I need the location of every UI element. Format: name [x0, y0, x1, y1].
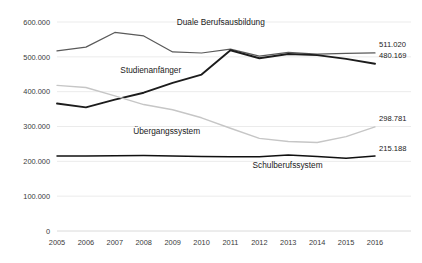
y-axis-tick-label: 300.000 — [23, 122, 50, 131]
y-axis-tick-label: 0 — [46, 227, 50, 236]
x-axis-labels: 2005200620072008200920102011201220132014… — [49, 238, 383, 247]
x-axis-tick-label: 2013 — [280, 238, 296, 247]
x-axis-tick-label: 2007 — [107, 238, 123, 247]
data-series-group — [57, 32, 375, 158]
chart-canvas: 0100.000200.000300.000400.000500.000600.… — [0, 0, 422, 263]
line-chart: 0100.000200.000300.000400.000500.000600.… — [0, 0, 422, 263]
y-axis-labels: 0100.000200.000300.000400.000500.000600.… — [23, 18, 50, 236]
x-axis-tick-label: 2012 — [251, 238, 267, 247]
series-name-label: Übergangssystem — [133, 126, 200, 136]
series-line — [57, 50, 375, 107]
x-axis-tick-label: 2015 — [338, 238, 354, 247]
x-axis-tick-label: 2010 — [193, 238, 209, 247]
series-end-value-label: 298.781 — [379, 114, 406, 123]
y-axis-tick-label: 400.000 — [23, 87, 50, 96]
series-end-value-label: 215.188 — [379, 144, 406, 153]
series-line — [57, 32, 375, 56]
x-axis-tick-label: 2011 — [223, 238, 239, 247]
x-axis-tick-label: 2005 — [49, 238, 65, 247]
x-axis-tick-label: 2014 — [309, 238, 325, 247]
series-name-label: Schulberufssystem — [253, 160, 323, 170]
series-name-label: Studienanfänger — [120, 65, 181, 75]
series-line — [57, 85, 375, 142]
x-axis-tick-label: 2008 — [136, 238, 152, 247]
y-axis-tick-label: 500.000 — [23, 53, 50, 62]
series-end-value-label: 480.169 — [379, 51, 406, 60]
series-end-value-label: 511.020 — [379, 40, 406, 49]
y-axis-tick-label: 600.000 — [23, 18, 50, 27]
x-axis-tick-label: 2006 — [78, 238, 94, 247]
y-axis-tick-label: 100.000 — [23, 192, 50, 201]
y-axis-tick-label: 200.000 — [23, 157, 50, 166]
series-end-value-labels: 511.020480.169298.781215.188 — [379, 40, 406, 152]
x-axis-tick-label: 2016 — [367, 238, 383, 247]
series-line — [57, 155, 375, 158]
x-axis-tick-label: 2009 — [164, 238, 180, 247]
series-name-label: Duale Berufsausbildung — [177, 17, 265, 27]
